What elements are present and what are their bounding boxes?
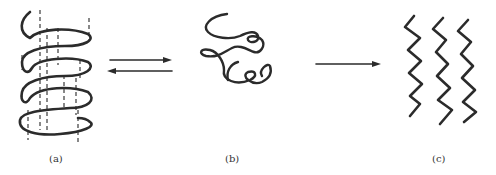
equilibrium-arrows (107, 57, 172, 74)
zigzag-chain-2 (433, 18, 452, 124)
zigzag-chain-3 (458, 20, 476, 122)
panel-label-a: (a) (49, 153, 63, 164)
panel-label-b: (b) (225, 153, 239, 164)
zigzag-chain-1 (405, 16, 422, 116)
forward-arrowhead-bc-icon (372, 61, 381, 67)
forward-arrowhead-icon (163, 57, 172, 63)
forward-arrow (316, 61, 381, 67)
diagram-canvas (0, 0, 496, 175)
random-coil-panel-b (201, 14, 271, 83)
panel-label-c: (c) (432, 153, 445, 164)
random-coil-lower (227, 62, 238, 80)
diagram-figure: (a) (b) (c) (0, 0, 496, 175)
helix-coil (20, 12, 92, 134)
zigzag-panel-c (405, 16, 476, 124)
reverse-arrowhead-icon (107, 68, 116, 74)
helix-panel-a (20, 10, 92, 145)
random-coil (201, 14, 271, 83)
